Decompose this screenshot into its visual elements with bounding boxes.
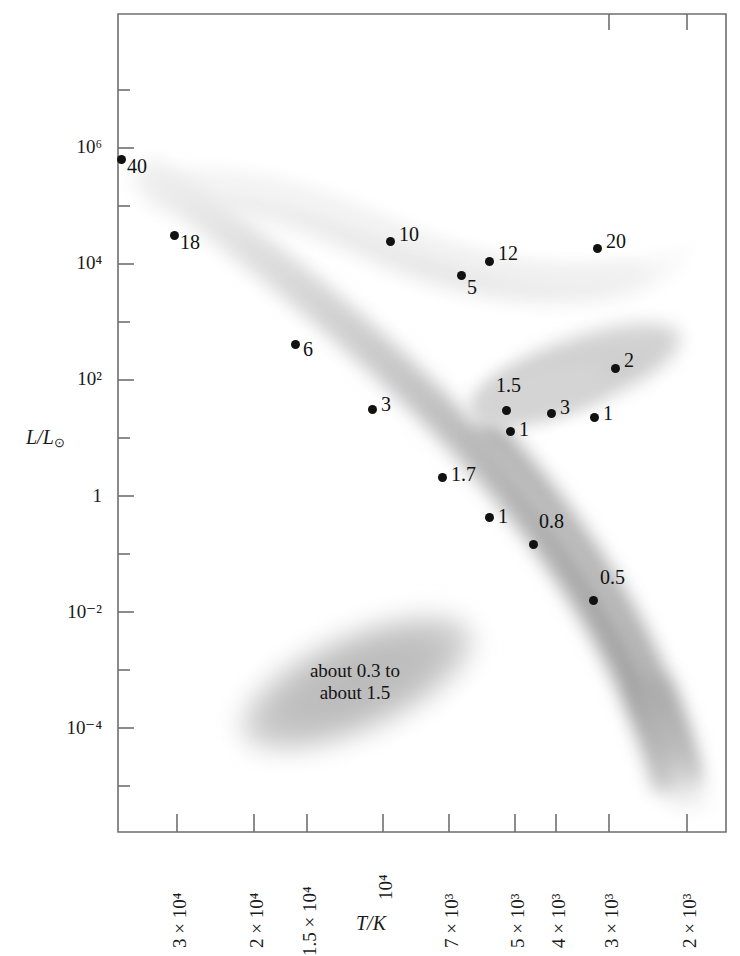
data-point bbox=[485, 513, 494, 522]
data-point-label: 1 bbox=[603, 402, 613, 425]
data-point-label: 40 bbox=[127, 155, 147, 178]
data-point bbox=[502, 406, 511, 415]
hr-diagram: 10⁶ 10⁴ 10² 1 10⁻² 10⁻⁴ 3 × 10⁴ 2 × 10⁴ … bbox=[0, 0, 740, 956]
data-point-label: 3 bbox=[560, 396, 570, 419]
data-point bbox=[529, 540, 538, 549]
data-point bbox=[457, 271, 466, 280]
data-point-label: 1 bbox=[519, 418, 529, 441]
data-point-label: 18 bbox=[180, 231, 200, 254]
data-point-label: 12 bbox=[498, 242, 518, 265]
data-point bbox=[438, 473, 447, 482]
data-point-label: 2 bbox=[624, 349, 634, 372]
data-point bbox=[485, 257, 494, 266]
data-point-label: 10 bbox=[399, 223, 419, 246]
data-point-label: 5 bbox=[467, 276, 477, 299]
data-point bbox=[291, 340, 300, 349]
data-points-layer: 40181051220621.533111.710.80.5 bbox=[0, 0, 740, 956]
data-point bbox=[506, 427, 515, 436]
data-point-label: 6 bbox=[303, 338, 313, 361]
data-point bbox=[386, 237, 395, 246]
data-point-label: 3 bbox=[381, 393, 391, 416]
data-point bbox=[589, 596, 598, 605]
data-point-label: 1.5 bbox=[496, 374, 521, 397]
data-point-label: 0.5 bbox=[600, 566, 625, 589]
data-point bbox=[547, 409, 556, 418]
data-point bbox=[368, 405, 377, 414]
data-point-label: 1 bbox=[498, 505, 508, 528]
data-point-label: 1.7 bbox=[451, 463, 476, 486]
data-point bbox=[593, 244, 602, 253]
data-point bbox=[117, 155, 126, 164]
data-point bbox=[611, 364, 620, 373]
data-point bbox=[170, 231, 179, 240]
data-point-label: 0.8 bbox=[539, 510, 564, 533]
data-point-label: 20 bbox=[606, 230, 626, 253]
data-point bbox=[590, 413, 599, 422]
